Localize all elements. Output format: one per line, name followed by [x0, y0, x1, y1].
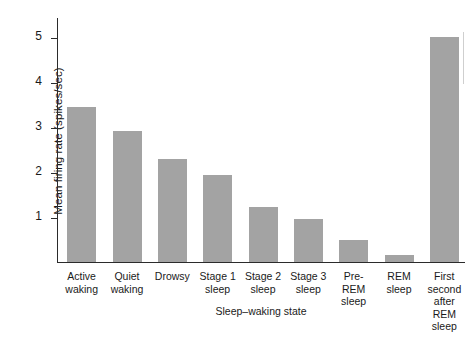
- bar: [294, 219, 323, 262]
- y-axis-line: [57, 18, 58, 263]
- y-axis-tick-label: 3: [35, 120, 42, 132]
- bar: [339, 240, 368, 262]
- y-axis-tick: 1: [51, 218, 57, 219]
- x-axis-line: [57, 262, 465, 263]
- y-axis-tick: 5: [51, 38, 57, 39]
- y-axis-tick: 4: [51, 83, 57, 84]
- bar-chart-figure: Mean firing rate (spikes/sec) 12345 Acti…: [0, 0, 474, 341]
- y-axis-tick-label: 5: [35, 30, 42, 42]
- x-axis-title-text: Sleep–waking state: [215, 305, 306, 317]
- bar: [203, 175, 232, 262]
- y-axis-tick: 3: [51, 128, 57, 129]
- bar: [113, 131, 142, 262]
- bar: [67, 107, 96, 262]
- y-axis-tick-label: 2: [35, 165, 42, 177]
- x-axis-tick-label-line: sleep: [418, 320, 471, 333]
- y-axis-tick-label: 1: [35, 210, 42, 222]
- x-axis-title: Sleep–waking state: [0, 305, 474, 317]
- y-axis-tick-label: 4: [35, 75, 42, 87]
- x-axis-tick-label-line: First: [418, 270, 471, 283]
- bar: [249, 207, 278, 262]
- y-axis-tick: 2: [51, 173, 57, 174]
- bar: [158, 159, 187, 262]
- x-axis-tick-label-line: second: [418, 283, 471, 296]
- bar: [430, 37, 459, 262]
- plot-area: 12345 ActivewakingQuietwakingDrowsyStage…: [57, 18, 465, 263]
- frame-edge-artifact: [463, 32, 464, 84]
- x-axis-tick-label-line: waking: [100, 283, 153, 296]
- x-axis-tick-label: FirstsecondafterREMsleep: [418, 270, 471, 333]
- bar: [385, 255, 414, 262]
